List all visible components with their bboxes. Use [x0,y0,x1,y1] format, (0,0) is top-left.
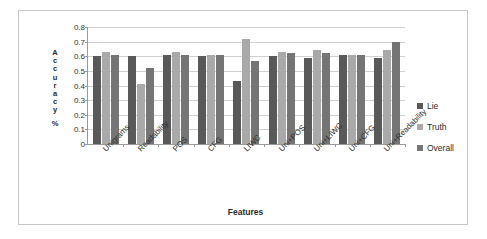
bar-group [88,27,123,144]
bar-truth[interactable] [207,55,215,144]
legend-swatch-icon [417,124,423,130]
bar-lie[interactable] [198,56,206,144]
x-axis-category-labels: UnigramsReadabilityPOSCFGLIWCUni+POSUni+… [87,147,404,203]
bar-truth[interactable] [383,50,391,144]
legend-item-overall[interactable]: Overall [417,137,487,158]
plot-area [87,27,405,145]
bar-group [229,27,264,144]
y-axis-tick-label: 0.6 [59,52,85,61]
x-axis-tick-mark [405,144,406,147]
legend-item-truth[interactable]: Truth [417,116,487,137]
bar-overall[interactable] [181,55,189,144]
bar-truth[interactable] [242,39,250,144]
legend-swatch-icon [417,145,423,151]
bar-overall[interactable] [216,55,224,144]
bar-group [194,27,229,144]
legend-label: Truth [427,122,447,132]
bar-truth[interactable] [172,52,180,144]
y-axis-tick-label: 0.7 [59,37,85,46]
bar-lie[interactable] [233,81,241,144]
bar-truth[interactable] [102,52,110,144]
chart-legend: LieTruthOverall [417,95,487,158]
bar-lie[interactable] [93,56,101,144]
y-axis-tick-mark [85,144,88,145]
y-axis-tick-label: 0.2 [59,110,85,119]
bar-truth[interactable] [278,52,286,144]
y-axis-tick-label: 0.1 [59,125,85,134]
bar-truth[interactable] [313,50,321,144]
bar-truth[interactable] [348,55,356,144]
legend-label: Lie [427,101,438,111]
y-axis-tick-labels: 0.80.70.60.50.40.30.20.10 [59,27,85,144]
y-axis-tick-label: 0 [59,140,85,149]
bar-lie[interactable] [269,56,277,144]
bar-group [264,27,299,144]
y-axis-tick-label: 0.5 [59,66,85,75]
x-axis-title: Features [87,207,404,217]
bar-truth[interactable] [137,84,145,144]
legend-label: Overall [427,143,454,153]
legend-item-lie[interactable]: Lie [417,95,487,116]
y-axis-tick-label: 0.4 [59,81,85,90]
bar-group [370,27,405,144]
y-axis-tick-label: 0.8 [59,23,85,32]
bar-series-container [88,27,405,144]
bar-overall[interactable] [251,61,259,144]
legend-swatch-icon [417,103,423,109]
chart-frame: Accuracy% 0.80.70.60.50.40.30.20.10 Unig… [18,10,468,225]
y-axis-tick-label: 0.3 [59,96,85,105]
